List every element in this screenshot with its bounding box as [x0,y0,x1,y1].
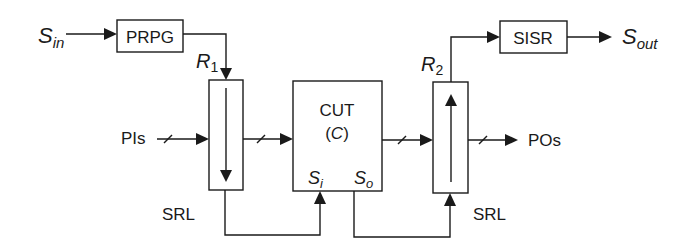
r2-to-sisr-wire [451,37,488,82]
r2-srl-label: SRL [473,205,506,224]
prpg-label: PRPG [126,28,174,47]
arrow-up-icon [314,191,326,204]
scan-in-label: Sin [38,23,64,51]
r2-label: R2 [421,53,443,78]
primary-outputs-label: POs [528,131,561,150]
cut-label: CUT [320,101,355,120]
so-to-r2-wire [354,191,450,237]
r1-to-si-wire [225,190,320,235]
arrow-head-icon [220,68,232,80]
arrow-head-icon [280,133,293,145]
r1-srl-label: SRL [162,205,195,224]
r1-label: R1 [196,50,218,75]
bist-architecture-diagram: Sin PRPG R1 SRL PIs CUT (C) Si So R2 SRL [0,0,687,249]
arrow-up-icon [444,193,456,206]
sisr-label: SISR [513,29,553,48]
primary-inputs-label: PIs [121,129,146,148]
arrow-head-icon [599,31,612,43]
arrow-head-icon [104,28,117,40]
scan-out-label: Sout [622,24,658,52]
arrow-head-icon [196,133,209,145]
cut-variable-label: (C) [325,124,349,143]
arrow-head-icon [487,31,500,43]
arrow-head-icon [505,134,518,146]
arrow-head-icon [420,134,433,146]
